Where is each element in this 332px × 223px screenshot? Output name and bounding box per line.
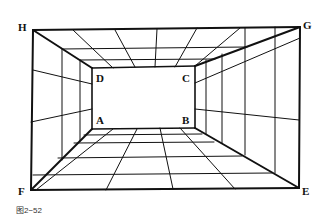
label-f: F	[18, 186, 25, 197]
label-d: D	[96, 73, 104, 84]
label-h: H	[18, 22, 27, 33]
room-edges	[31, 27, 300, 190]
label-e: E	[302, 186, 309, 197]
label-c: C	[182, 73, 190, 84]
one-point-perspective-room-diagram	[0, 0, 332, 223]
right-wall-grid	[195, 27, 300, 173]
floor-grid	[33, 128, 272, 190]
back-wall	[92, 66, 195, 129]
figure-caption: 图2−52	[16, 204, 42, 215]
label-a: A	[96, 115, 104, 126]
label-b: B	[182, 115, 189, 126]
label-g: G	[303, 20, 312, 31]
ceiling-grid	[62, 28, 247, 68]
